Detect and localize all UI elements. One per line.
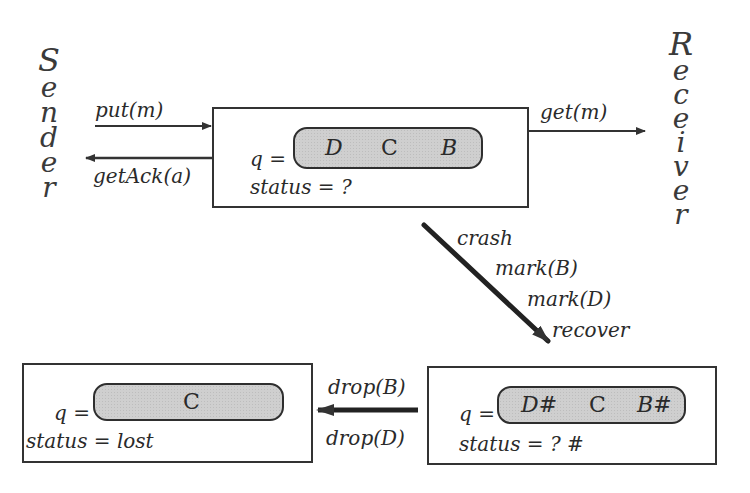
queue-item-d-marked: D# [521,392,557,417]
queue-item-c: C [183,389,200,414]
drop-d-label: drop(D) [326,426,405,450]
get-label: get(m) [540,100,607,124]
state-box-initial: q = D C B status = ? [212,107,529,208]
sender-letter: r [42,174,55,202]
crash-label: crash [457,226,513,250]
queue-item-c: C [381,135,398,160]
queue-item-b: B [441,135,457,160]
receiver-label: R e c e i v e r [668,28,694,229]
getack-label: getAck(a) [93,164,191,188]
status-text: status = ? [250,175,352,199]
queue-item-d: D [325,135,343,160]
state-box-recovered: q = D# C B# status = ? # [427,366,717,465]
mark-b-label: mark(B) [495,256,578,280]
queue-label: q = [459,402,495,426]
queue-pill: C [93,383,284,421]
queue-item-c: C [589,392,606,417]
receiver-letter: r [674,201,687,229]
queue-item-b-marked: B# [637,392,672,417]
drop-b-label: drop(B) [328,375,406,399]
status-text: status = ? # [459,432,584,456]
queue-label: q = [54,401,90,425]
queue-pill: D C B [293,127,483,169]
recover-label: recover [552,318,629,342]
queue-pill: D# C B# [497,386,686,424]
queue-label: q = [250,147,286,171]
put-label: put(m) [95,98,163,122]
state-box-lost: q = C status = lost [22,363,313,463]
mark-d-label: mark(D) [527,287,611,311]
sender-label: S e n d e r [36,44,62,202]
status-text: status = lost [26,429,154,453]
